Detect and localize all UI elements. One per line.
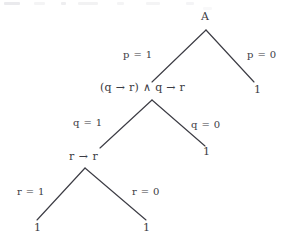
edge-label-r-false: r = 0: [132, 187, 160, 197]
node-root: A: [201, 11, 209, 22]
leaf-node: 1: [34, 222, 41, 233]
leaf-node: 1: [143, 222, 150, 233]
edge-label-r-true: r = 1: [17, 187, 45, 197]
edge-label-q-false: q = 0: [191, 120, 221, 130]
leaf-node: 1: [254, 84, 261, 95]
figure-canvas: A (q → r) ∧ q → r r → r p = 1 p = 0 q = …: [0, 0, 288, 248]
edge-label-q-true: q = 1: [73, 118, 103, 128]
node-level3-formula: r → r: [69, 151, 98, 162]
node-level2-formula: (q → r) ∧ q → r: [100, 82, 185, 93]
edge-lvl2-left: [100, 100, 152, 148]
edge-root-left: [152, 30, 206, 82]
tree-edges: [0, 0, 288, 248]
leaf-node: 1: [203, 146, 210, 157]
edge-label-p-false: p = 0: [247, 50, 277, 60]
edge-label-p-true: p = 1: [123, 50, 153, 60]
